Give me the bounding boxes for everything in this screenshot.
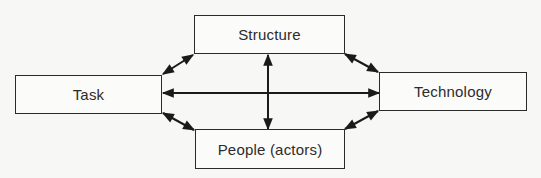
arrow-structure-technology — [345, 54, 378, 72]
node-task: Task — [15, 75, 162, 114]
node-technology: Technology — [379, 72, 527, 111]
node-technology-label: Technology — [414, 83, 492, 100]
diagram-canvas: Structure Task Technology People (actors… — [0, 0, 541, 178]
node-structure: Structure — [194, 15, 345, 54]
node-people: People (actors) — [195, 129, 345, 169]
node-structure-label: Structure — [238, 26, 301, 43]
arrow-people-technology — [345, 111, 378, 129]
node-task-label: Task — [73, 86, 105, 103]
arrow-task-people — [163, 113, 194, 130]
arrow-task-structure — [163, 55, 193, 74]
node-people-label: People (actors) — [218, 141, 323, 158]
